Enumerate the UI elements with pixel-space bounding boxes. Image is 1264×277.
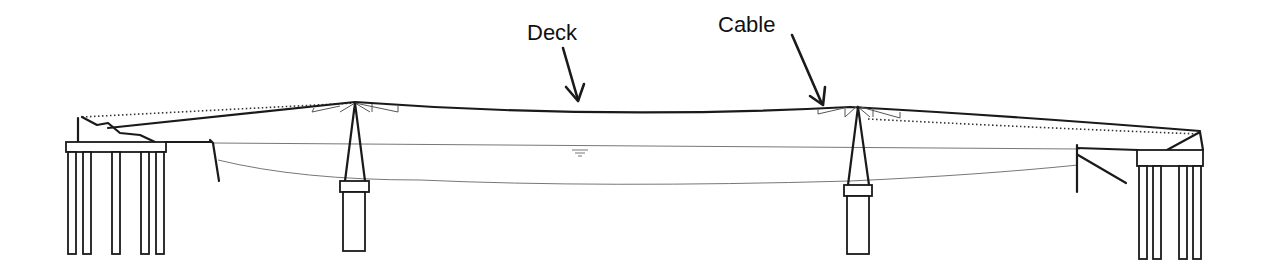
pile [1139,166,1147,259]
pile [1193,166,1201,259]
left-tower [340,103,369,251]
pile [112,152,120,254]
deck-label: Deck [527,20,578,45]
right-abutment [1077,132,1203,259]
water-line [213,143,1080,149]
left-abutment [66,117,219,254]
pile [141,152,149,254]
bridge-diagram: Deck Cable [0,0,1264,277]
pile [68,152,76,254]
pile [156,152,164,254]
water-level-icon [572,150,588,156]
pile [1153,166,1161,259]
cable-label: Cable [718,12,775,37]
deck-arrow-icon [563,48,584,101]
pile [1179,166,1187,259]
pile [83,152,91,254]
cable-arrow-icon [792,35,825,105]
